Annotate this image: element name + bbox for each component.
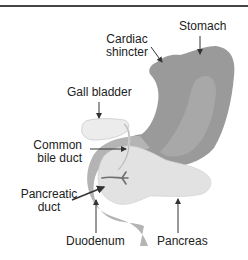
label-cardiac-line2: shincter — [104, 46, 150, 59]
label-common-bile-line2: bile duct — [30, 152, 82, 165]
label-pancreatic-duct: Pancreatic duct — [18, 188, 80, 214]
label-stomach: Stomach — [179, 20, 226, 33]
label-duodenum: Duodenum — [66, 235, 125, 248]
label-pancreatic-line2: duct — [18, 201, 80, 214]
label-common-bile-duct: Common bile duct — [30, 139, 82, 165]
label-cardiac-sphincter: Cardiac shincter — [104, 33, 150, 59]
arrow-cardiac — [151, 47, 162, 62]
label-pancreas: Pancreas — [157, 235, 208, 248]
gall-bladder-shape — [82, 119, 129, 140]
label-gall-bladder: Gall bladder — [67, 86, 132, 99]
